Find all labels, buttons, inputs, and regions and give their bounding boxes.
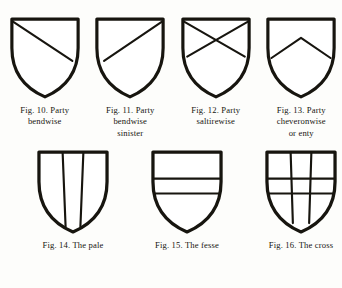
figure-caption-fig-15: Fig. 15. The fesse (155, 240, 219, 251)
figure-fig-16: Fig. 16. The cross (264, 149, 338, 251)
caption-line: Fig. 12. Party (191, 105, 240, 116)
caption-line: Fig. 14. The pale (43, 240, 104, 251)
shield-the-fesse (150, 149, 224, 235)
shield-the-cross (264, 149, 338, 235)
caption-line: cheveronwise (277, 116, 326, 127)
figure-caption-fig-12: Fig. 12. Partysaltirewise (191, 105, 240, 128)
caption-line: bendwise (20, 116, 69, 127)
shield-outline (268, 19, 334, 97)
heraldry-plate: Fig. 10. PartybendwiseFig. 11. Partybend… (0, 0, 342, 288)
shield-wrap-fig-11 (94, 16, 166, 100)
figure-fig-12: Fig. 12. Partysaltirewise (180, 16, 252, 128)
shield-outline (39, 152, 107, 232)
shield-party-cheveronwise (265, 16, 337, 100)
shield-party-bendwise (9, 16, 81, 100)
shield-party-saltirewise (180, 16, 252, 100)
figure-caption-fig-14: Fig. 14. The pale (43, 240, 104, 251)
figure-row-top: Fig. 10. PartybendwiseFig. 11. Partybend… (0, 0, 342, 139)
caption-line: saltirewise (191, 116, 240, 127)
shield-wrap-fig-10 (9, 16, 81, 100)
caption-line: sinister (106, 128, 155, 139)
caption-line: Fig. 15. The fesse (155, 240, 219, 251)
shield-the-pale (36, 149, 110, 235)
figure-caption-fig-13: Fig. 13. Partycheveronwiseor enty (277, 105, 326, 139)
shield-wrap-fig-12 (180, 16, 252, 100)
figure-caption-fig-16: Fig. 16. The cross (269, 240, 333, 251)
shield-outline (183, 19, 249, 97)
caption-line: Fig. 11. Party (106, 105, 155, 116)
figure-fig-15: Fig. 15. The fesse (150, 149, 224, 251)
figure-caption-fig-11: Fig. 11. Partybendwisesinister (106, 105, 155, 139)
shield-wrap-fig-16 (264, 149, 338, 235)
shield-wrap-fig-15 (150, 149, 224, 235)
shield-wrap-fig-13 (265, 16, 337, 100)
figure-row-bottom: Fig. 14. The paleFig. 15. The fesseFig. … (0, 139, 342, 251)
figure-fig-10: Fig. 10. Partybendwise (9, 16, 81, 128)
shield-party-bendwise-sinister (94, 16, 166, 100)
caption-line: or enty (277, 128, 326, 139)
caption-line: bendwise (106, 116, 155, 127)
shield-outline (267, 152, 335, 232)
figure-fig-13: Fig. 13. Partycheveronwiseor enty (265, 16, 337, 139)
caption-line: Fig. 16. The cross (269, 240, 333, 251)
figure-fig-14: Fig. 14. The pale (36, 149, 110, 251)
figure-caption-fig-10: Fig. 10. Partybendwise (20, 105, 69, 128)
shield-wrap-fig-14 (36, 149, 110, 235)
caption-line: Fig. 13. Party (277, 105, 326, 116)
figure-fig-11: Fig. 11. Partybendwisesinister (94, 16, 166, 139)
shield-outline (153, 152, 221, 232)
caption-line: Fig. 10. Party (20, 105, 69, 116)
